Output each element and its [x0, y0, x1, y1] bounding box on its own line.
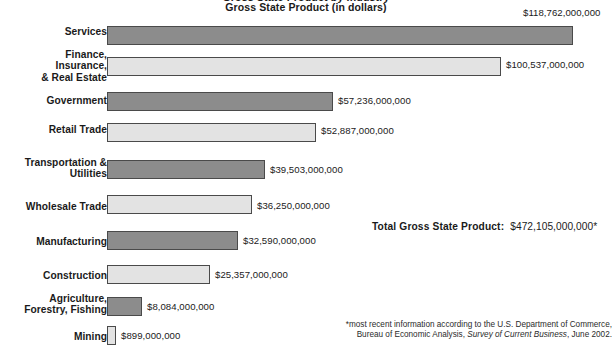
bar [107, 231, 238, 250]
category-label: Construction [43, 270, 107, 281]
gross-state-product-bar-chart: Gross State Product by Industry Gross St… [0, 0, 612, 347]
bar-value-label: $25,357,000,000 [215, 269, 288, 280]
category-label: Retail Trade [49, 124, 107, 135]
chart-subtitle: Gross State Product (in dollars) [0, 1, 612, 13]
category-label: Manufacturing [36, 236, 107, 247]
footnote-source-prefix: Bureau of Economic Analysis, [357, 330, 468, 339]
bar-value-label: $39,503,000,000 [270, 164, 343, 175]
bar-value-label: $100,537,000,000 [506, 59, 584, 70]
category-label: Agriculture, Forestry, Fishing [24, 293, 107, 316]
bar-value-label: $36,250,000,000 [257, 200, 330, 211]
bar-value-label: $52,887,000,000 [321, 125, 394, 136]
total-gross-state-product: Total Gross State Product:$472,105,000,0… [372, 221, 597, 232]
category-label: Services [65, 26, 107, 37]
footnote: *most recent information according to th… [332, 320, 612, 341]
bar-value-label: $32,590,000,000 [243, 235, 316, 246]
footnote-source-suffix: , June 2002. [567, 330, 612, 339]
footnote-line-1: *most recent information according to th… [332, 320, 612, 330]
category-label: Finance, Insurance, & Real Estate [41, 49, 107, 83]
footnote-line-2: Bureau of Economic Analysis, Survey of C… [332, 330, 612, 340]
bar-value-label: $57,236,000,000 [338, 95, 411, 106]
bar [107, 26, 573, 45]
total-label: Total Gross State Product: [372, 221, 504, 232]
category-label: Government [46, 95, 107, 106]
category-label: Wholesale Trade [26, 201, 107, 212]
bar [107, 297, 142, 316]
bar [107, 160, 265, 179]
total-value: $472,105,000,000* [510, 221, 597, 232]
bar-value-label: $899,000,000 [121, 330, 180, 341]
category-label: Mining [74, 331, 107, 342]
bar [107, 123, 316, 142]
footnote-publication-title: Survey of Current Business [467, 330, 567, 339]
category-label: Transportation & Utilities [25, 157, 107, 180]
bar [107, 57, 501, 76]
bar [107, 92, 333, 111]
bar [107, 195, 252, 214]
bar [107, 326, 116, 345]
bar-value-label: $118,762,000,000 [523, 7, 600, 18]
bar-value-label: $8,084,000,000 [147, 301, 214, 312]
bar [107, 265, 210, 284]
